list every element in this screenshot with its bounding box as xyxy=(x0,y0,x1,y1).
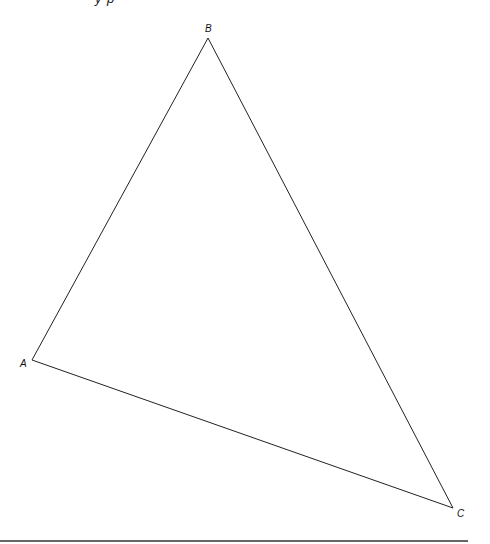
vertex-label-a: A xyxy=(19,358,27,369)
figure-canvas: y p A B C xyxy=(0,0,490,544)
triangle-diagram: A B C xyxy=(0,0,490,544)
vertex-label-c: C xyxy=(457,508,465,519)
triangle-abc xyxy=(32,38,453,508)
vertex-label-b: B xyxy=(205,23,212,34)
clipped-header-text: y p xyxy=(95,0,115,6)
